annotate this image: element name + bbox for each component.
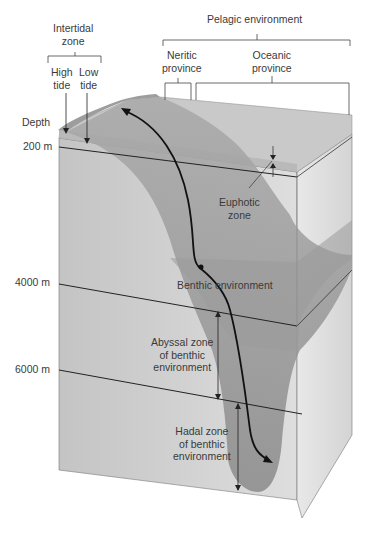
intertidal-line2: zone [53,35,93,48]
label-pelagic-environment: Pelagic environment [207,13,302,26]
label-intertidal-zone: Intertidal zone [53,22,93,47]
label-oceanic-province: Oceanic province [252,49,292,74]
depth-tick-4000m: 4000 m [15,276,50,289]
depth-tick-6000m: 6000 m [15,363,50,376]
label-euphotic-zone: Euphotic zone [219,196,260,221]
label-low-tide: Low tide [79,66,98,91]
label-neritic-province: Neritic province [162,49,202,74]
label-benthic-environment: Benthic environment [177,279,273,292]
intertidal-bracket [48,52,101,63]
label-high-tide: High tide [51,66,73,91]
depth-tick-200m: 200 m [23,140,52,153]
label-hadal-zone: Hadal zone of benthic environment [173,425,231,463]
depth-axis-title: Depth [22,116,50,129]
neritic-bracket [165,78,191,100]
pelagic-bracket [163,34,350,46]
label-abyssal-zone: Abyssal zone of benthic environment [151,336,213,374]
intertidal-line1: Intertidal [53,22,93,35]
